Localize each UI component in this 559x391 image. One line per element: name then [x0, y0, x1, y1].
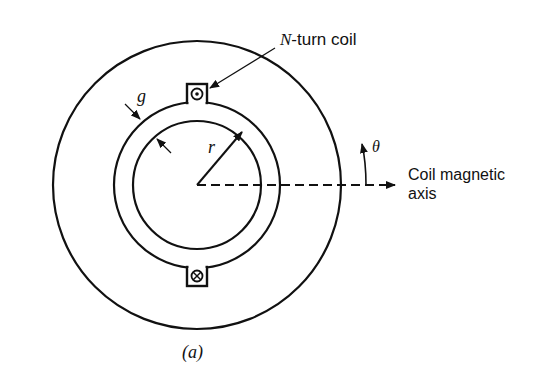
gap-arrow-inner: [157, 139, 171, 153]
theta-arc-arrow: [362, 144, 366, 185]
gap-arrow-outer: [125, 104, 140, 119]
coil-label: N-turn coil: [279, 30, 357, 49]
gap-label: g: [137, 86, 146, 106]
top-slot: [187, 84, 207, 106]
machine-diagram: N-turn coil g r θ Coil magnetic axis (a): [0, 0, 559, 391]
theta-label: θ: [372, 138, 380, 155]
figure-caption: (a): [182, 342, 203, 363]
coil-leader-arrow: [210, 48, 275, 88]
bottom-slot: [187, 264, 207, 286]
radius-arrow: [197, 132, 242, 185]
axis-label-line2: axis: [408, 185, 436, 202]
radius-label: r: [208, 137, 216, 157]
axis-label-line1: Coil magnetic: [408, 166, 505, 183]
